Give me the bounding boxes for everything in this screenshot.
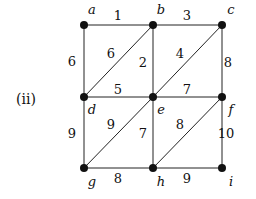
weighted-graph: (ii) 13662485799781089 abcdefghi — [0, 0, 256, 199]
node-label-group: abcdefghi — [88, 2, 236, 189]
edge-weight-e-g: 9 — [107, 117, 115, 132]
edge-weight-b-e: 2 — [139, 55, 147, 70]
edge-weight-e-c: 4 — [176, 46, 184, 61]
node-h — [149, 164, 157, 172]
node-label-i: i — [229, 174, 233, 189]
edge-weight-b-c: 3 — [183, 8, 191, 23]
node-label-h: h — [157, 174, 165, 189]
graph-diagram: (ii) 13662485799781089 abcdefghi — [0, 0, 256, 199]
edge-weight-f-i: 10 — [218, 126, 235, 141]
node-label-d: d — [88, 102, 96, 117]
edge-weight-d-g: 9 — [68, 126, 76, 141]
node-label-g: g — [88, 174, 96, 189]
node-label-f: f — [228, 102, 236, 117]
node-i — [218, 164, 226, 172]
node-e — [149, 93, 157, 101]
edge-weight-g-h: 8 — [114, 171, 122, 186]
node-a — [80, 21, 88, 29]
edge-weight-a-d: 6 — [68, 54, 76, 69]
node-c — [218, 21, 226, 29]
node-d — [80, 93, 88, 101]
edge-weight-c-f: 8 — [224, 55, 232, 70]
edge-weight-a-b: 1 — [114, 8, 122, 23]
node-label-a: a — [88, 2, 96, 17]
node-label-e: e — [157, 102, 165, 117]
node-b — [149, 21, 157, 29]
edge-weight-b-d: 6 — [107, 46, 115, 61]
node-label-c: c — [227, 2, 235, 17]
edge-weight-h-f: 8 — [176, 117, 184, 132]
edge-weight-h-i: 9 — [183, 171, 191, 186]
edge-weight-d-e: 5 — [114, 82, 122, 97]
edge-weight-e-f: 7 — [183, 82, 191, 97]
edge-weight-e-h: 7 — [139, 126, 147, 141]
node-label-b: b — [157, 2, 165, 17]
node-g — [80, 164, 88, 172]
node-f — [218, 93, 226, 101]
figure-caption: (ii) — [16, 91, 36, 107]
